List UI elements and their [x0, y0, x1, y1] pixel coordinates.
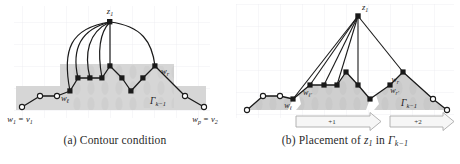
shift-arrow-1-label: +1	[328, 118, 336, 126]
label-apex-b: z1	[361, 2, 368, 13]
label-w1v1-a: w1 = v1	[7, 114, 32, 125]
shift-arrow-2-label: +2	[414, 118, 422, 126]
caption-b: (b) Placement of z1 in Γk−1	[230, 134, 460, 148]
caption-a-prefix: (a)	[64, 134, 77, 146]
caption-b-prefix: (b)	[282, 134, 296, 146]
label-wpv2-a: wp = v2	[192, 114, 217, 125]
caption-a: (a) Contour condition	[0, 134, 230, 146]
node-apex-a	[107, 19, 112, 24]
caption-b-math2-sub: k−1	[395, 139, 408, 148]
caption-b-mid: in	[376, 134, 385, 146]
caption-a-text: Contour condition	[80, 134, 167, 146]
node-apex-b	[355, 13, 360, 18]
caption-b-math1-sub: 1	[369, 139, 373, 148]
figure-pair: z1 wℓ wr Γk−1 w1 = v1 wp = v2 (a) Contou…	[0, 0, 460, 164]
caption-b-text: Placement of	[299, 134, 361, 146]
figure-b: +1 +2 z1 wℓ wℓ′ wr wr′ Γ	[230, 0, 460, 164]
figure-a: z1 wℓ wr Γk−1 w1 = v1 wp = v2 (a) Contou…	[0, 0, 230, 164]
figure-b-canvas: +1 +2 z1 wℓ wℓ′ wr wr′ Γ	[230, 0, 460, 134]
caption-b-math2: Γ	[388, 134, 395, 146]
figure-a-canvas: z1 wℓ wr Γk−1 w1 = v1 wp = v2	[0, 0, 230, 134]
